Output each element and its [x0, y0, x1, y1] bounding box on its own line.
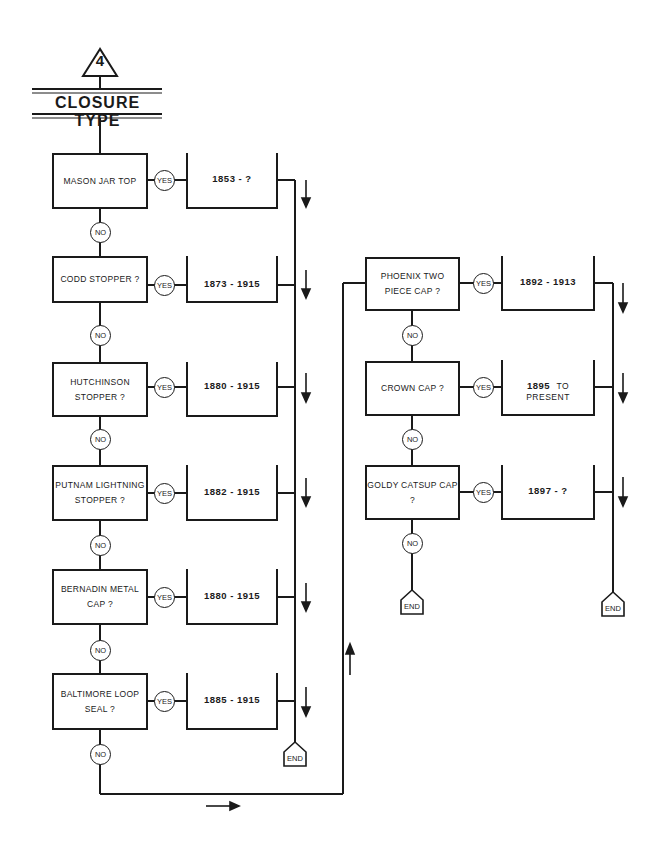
arrow-down-icon: [619, 373, 627, 402]
end-label: END: [284, 754, 306, 763]
date-range-codd-stopper: 1873 - 1915: [189, 278, 275, 289]
arrow-right-icon: [206, 802, 239, 810]
yes-connector: YES: [473, 482, 494, 503]
date-range-phoenix-two-piece-cap: 1892 - 1913: [504, 276, 592, 287]
no-connector: NO: [90, 744, 111, 765]
date-start: 1895: [527, 380, 550, 391]
yes-connector: YES: [154, 377, 175, 398]
end-label: END: [401, 602, 423, 611]
page-title: CLOSURE TYPE: [30, 94, 165, 130]
no-connector: NO: [90, 640, 111, 661]
arrow-up-icon: [346, 644, 354, 675]
end-label: END: [602, 604, 624, 613]
yes-connector: YES: [154, 587, 175, 608]
arrow-down-icon: [619, 283, 627, 312]
yes-connector: YES: [154, 170, 175, 191]
decision-hutchinson-stopper: HUTCHINSON STOPPER ?: [52, 362, 148, 417]
decision-bernadin-metal-cap: BERNADIN METAL CAP ?: [52, 569, 148, 625]
date-range-goldy-catsup-cap: 1897 - ?: [504, 485, 592, 496]
date-range-baltimore-loop-seal: 1885 - 1915: [189, 694, 275, 705]
yes-connector: YES: [473, 273, 494, 294]
no-connector: NO: [90, 429, 111, 450]
arrow-down-icon: [302, 180, 310, 207]
no-connector: NO: [402, 325, 423, 346]
decision-crown-cap: CROWN CAP ?: [365, 361, 460, 416]
arrow-down-icon: [619, 477, 627, 506]
date-range-bernadin-metal-cap: 1880 - 1915: [189, 590, 275, 601]
arrow-down-icon: [302, 687, 310, 716]
yes-connector: YES: [154, 275, 175, 296]
decision-putnam-lightning-stopper: PUTNAM LIGHTNING STOPPER ?: [52, 465, 148, 521]
date-range-crown-cap: 1895 TO PRESENT: [504, 380, 592, 402]
yes-connector: YES: [154, 483, 175, 504]
step-number: 4: [90, 52, 110, 69]
no-connector: NO: [90, 222, 111, 243]
no-connector: NO: [402, 533, 423, 554]
arrow-down-icon: [302, 270, 310, 298]
decision-mason-jar-top: MASON JAR TOP: [52, 153, 148, 209]
arrow-down-icon: [302, 583, 310, 611]
arrow-down-icon: [302, 478, 310, 506]
yes-connector: YES: [154, 691, 175, 712]
decision-phoenix-two-piece-cap: PHOENIX TWO PIECE CAP ?: [365, 257, 460, 311]
date-range-putnam-lightning: 1882 - 1915: [189, 486, 275, 497]
decision-codd-stopper: CODD STOPPER ?: [52, 256, 148, 303]
no-connector: NO: [402, 429, 423, 450]
yes-connector: YES: [473, 377, 494, 398]
no-connector: NO: [90, 325, 111, 346]
date-range-mason-jar-top: 1853 - ?: [189, 173, 275, 184]
decision-baltimore-loop-seal: BALTIMORE LOOP SEAL ?: [52, 673, 148, 730]
date-range-hutchinson-stopper: 1880 - 1915: [189, 380, 275, 391]
no-connector: NO: [90, 535, 111, 556]
arrow-down-icon: [302, 373, 310, 402]
decision-goldy-catsup-cap: GOLDY CATSUP CAP ?: [365, 465, 460, 520]
